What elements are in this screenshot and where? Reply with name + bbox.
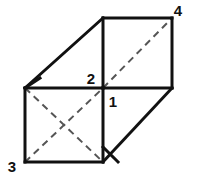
geometry-figure-canvas: 4213 [0, 0, 197, 177]
label-1: 1 [109, 93, 117, 110]
label-3: 3 [8, 158, 16, 175]
label-4: 4 [174, 2, 183, 19]
prism-diagram: 4213 [0, 0, 197, 177]
label-2: 2 [87, 70, 95, 87]
